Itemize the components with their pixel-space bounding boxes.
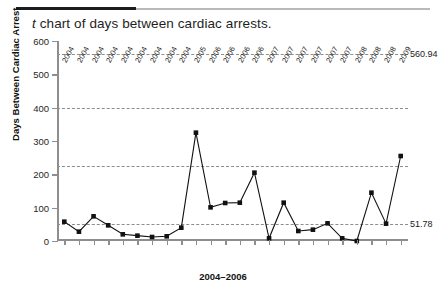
y-tick-label-300: 300	[33, 136, 49, 147]
y-tick-label-400: 400	[33, 102, 49, 113]
plot-area: 6005004003002001000 560.9451.78 20042004…	[57, 41, 408, 241]
lower-control-limit-label: 51.78	[410, 219, 433, 229]
y-tick-0	[52, 241, 58, 242]
data-point-marker	[135, 233, 140, 238]
data-point-marker	[121, 232, 126, 237]
x-tick-18	[328, 240, 329, 245]
x-tick-12	[240, 240, 241, 245]
data-point-marker	[77, 229, 82, 234]
data-point-marker	[179, 225, 184, 230]
data-point-marker	[164, 234, 169, 239]
x-tick-7	[167, 240, 168, 245]
x-tick-3	[108, 240, 109, 245]
data-point-marker	[194, 130, 199, 135]
x-tick-23	[401, 240, 402, 245]
data-point-marker	[150, 235, 155, 240]
data-point-marker	[238, 200, 243, 205]
x-tick-13	[254, 240, 255, 245]
header-rule-light	[136, 8, 430, 10]
data-point-marker	[296, 229, 301, 234]
data-point-marker	[91, 214, 96, 219]
data-point-marker	[208, 205, 213, 210]
header-rule-dark	[16, 7, 136, 10]
data-point-marker	[223, 201, 228, 206]
data-point-marker	[311, 227, 316, 232]
x-tick-21	[371, 240, 372, 245]
x-tick-5	[137, 240, 138, 245]
x-tick-2	[94, 240, 95, 245]
x-tick-8	[181, 240, 182, 245]
data-series	[57, 41, 408, 241]
x-tick-10	[211, 240, 212, 245]
data-point-marker	[384, 221, 389, 226]
data-point-marker	[281, 200, 286, 205]
x-tick-4	[123, 240, 124, 245]
data-point-marker	[106, 223, 111, 228]
x-tick-20	[357, 240, 358, 245]
x-tick-22	[386, 240, 387, 245]
x-tick-11	[225, 240, 226, 245]
x-tick-19	[342, 240, 343, 245]
data-point-marker	[369, 190, 374, 195]
y-tick-label-500: 500	[33, 69, 49, 80]
y-tick-label-200: 200	[33, 169, 49, 180]
y-axis-title: Days Between Cardiac Arrest	[10, 8, 21, 141]
x-tick-9	[196, 240, 197, 245]
y-tick-label-600: 600	[33, 36, 49, 47]
page-title: t chart of days between cardiac arrests.	[32, 16, 272, 31]
x-tick-15	[284, 240, 285, 245]
data-point-marker	[398, 154, 403, 159]
x-tick-6	[152, 240, 153, 245]
y-tick-label-100: 100	[33, 202, 49, 213]
title-text: chart of days between cardiac arrests.	[36, 16, 272, 31]
header-rule	[16, 7, 430, 10]
chart-page: t chart of days between cardiac arrests.…	[0, 0, 446, 294]
x-tick-0	[64, 240, 65, 245]
y-tick-label-0: 0	[44, 236, 49, 247]
data-point-marker	[325, 221, 330, 226]
upper-control-limit-label: 560.94	[410, 49, 438, 59]
series-line	[64, 133, 400, 241]
x-axis-title: 2004–2006	[0, 271, 446, 282]
x-tick-17	[313, 240, 314, 245]
x-tick-14	[269, 240, 270, 245]
x-tick-1	[79, 240, 80, 245]
x-tick-16	[298, 240, 299, 245]
data-point-marker	[62, 219, 67, 224]
data-point-marker	[252, 170, 257, 175]
